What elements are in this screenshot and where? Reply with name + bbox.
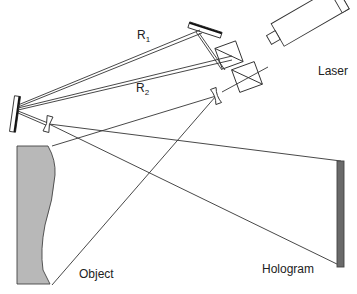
holography-diagram: R1 R2 Laser Object Hologram [0,0,357,294]
label-r1: R1 [137,29,150,44]
label-hologram: Hologram [262,263,314,275]
laser-source [263,0,350,51]
mirror-top [188,22,222,38]
mirror-left [10,96,21,132]
beam-splitter-2 [232,62,263,93]
label-r2: R2 [136,82,149,97]
lens-right [210,87,221,104]
object-shape [17,146,55,284]
beam-splitter-1 [215,41,243,69]
label-laser: Laser [318,65,348,77]
diagram-canvas [0,0,357,294]
hologram-plate [337,161,344,267]
label-object: Object [79,268,114,280]
